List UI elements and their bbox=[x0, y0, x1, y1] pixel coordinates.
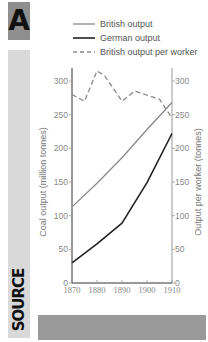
x-tick-label: 1890 bbox=[114, 285, 131, 295]
right-y-tick-label: 100 bbox=[175, 211, 189, 221]
right-y-tick-label: 200 bbox=[175, 143, 189, 153]
left-y-tick-label: 200 bbox=[54, 143, 68, 153]
series-line-german-output bbox=[72, 134, 172, 263]
right-axis-title: Output per worker (tonnes) bbox=[193, 128, 203, 236]
left-axis-title: Coal output (million tonnes) bbox=[38, 127, 48, 237]
axes: 0050501001001501502002002502503003001870… bbox=[38, 68, 203, 295]
x-tick-label: 1910 bbox=[164, 285, 181, 295]
left-y-tick-label: 250 bbox=[54, 110, 68, 120]
x-tick-label: 1900 bbox=[139, 285, 156, 295]
series-line-british-output-per-worker bbox=[72, 71, 172, 118]
left-y-tick-label: 50 bbox=[59, 244, 69, 254]
right-y-tick-label: 250 bbox=[175, 110, 189, 120]
legend-label: German output bbox=[100, 33, 161, 43]
right-y-tick-label: 300 bbox=[175, 76, 189, 86]
left-y-tick-label: 300 bbox=[54, 76, 68, 86]
right-y-tick-label: 150 bbox=[175, 177, 189, 187]
line-chart: British outputGerman outputBritish outpu… bbox=[0, 0, 208, 342]
legend-label: British output bbox=[100, 19, 153, 29]
left-y-tick-label: 150 bbox=[54, 177, 68, 187]
left-y-tick-label: 100 bbox=[54, 211, 68, 221]
x-tick-label: 1870 bbox=[64, 285, 81, 295]
legend-label: British output per worker bbox=[100, 47, 198, 57]
right-y-tick-label: 50 bbox=[175, 244, 185, 254]
series-line-british-output bbox=[72, 103, 172, 207]
x-tick-label: 1880 bbox=[89, 285, 106, 295]
series bbox=[72, 71, 172, 263]
legend: British outputGerman outputBritish outpu… bbox=[73, 19, 198, 57]
